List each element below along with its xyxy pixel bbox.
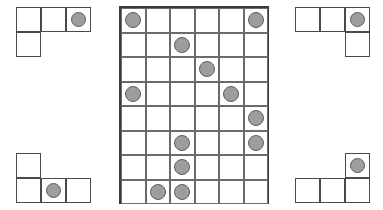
board-cell[interactable] bbox=[121, 57, 146, 82]
puzzle-canvas bbox=[0, 0, 383, 210]
piece-cell[interactable] bbox=[320, 7, 345, 32]
board-cell[interactable] bbox=[146, 8, 171, 33]
board-cell[interactable] bbox=[146, 57, 171, 82]
board-disc[interactable] bbox=[150, 184, 166, 200]
piece-cell[interactable] bbox=[16, 178, 41, 203]
board-disc[interactable] bbox=[174, 184, 190, 200]
board-cell[interactable] bbox=[195, 8, 220, 33]
board-cell[interactable] bbox=[195, 155, 220, 180]
piece-cell[interactable] bbox=[16, 153, 41, 178]
board-cell[interactable] bbox=[170, 57, 195, 82]
piece-cell[interactable] bbox=[320, 178, 345, 203]
piece-cell[interactable] bbox=[295, 178, 320, 203]
board-cell[interactable] bbox=[121, 155, 146, 180]
board-cell[interactable] bbox=[121, 180, 146, 205]
board-cell[interactable] bbox=[195, 106, 220, 131]
board-cell[interactable] bbox=[219, 131, 244, 156]
board-cell[interactable] bbox=[219, 57, 244, 82]
board-cell[interactable] bbox=[244, 57, 269, 82]
board-disc[interactable] bbox=[223, 86, 239, 102]
board-cell[interactable] bbox=[146, 131, 171, 156]
piece-cell[interactable] bbox=[41, 7, 66, 32]
bottom-right-piece[interactable] bbox=[295, 153, 371, 205]
board-cell[interactable] bbox=[195, 82, 220, 107]
piece-cell[interactable] bbox=[66, 178, 91, 203]
bottom-left-piece[interactable] bbox=[16, 153, 92, 205]
top-left-piece[interactable] bbox=[16, 7, 92, 59]
board-cell[interactable] bbox=[170, 82, 195, 107]
board-cell[interactable] bbox=[244, 180, 269, 205]
board-cell[interactable] bbox=[121, 131, 146, 156]
board-cells-layer bbox=[121, 8, 267, 202]
board-cell[interactable] bbox=[121, 33, 146, 58]
board-cell[interactable] bbox=[195, 33, 220, 58]
board-disc[interactable] bbox=[125, 86, 141, 102]
board-cell[interactable] bbox=[170, 8, 195, 33]
board-cell[interactable] bbox=[195, 131, 220, 156]
piece-cell[interactable] bbox=[16, 32, 41, 57]
piece-cell[interactable] bbox=[345, 32, 370, 57]
board-cell[interactable] bbox=[244, 155, 269, 180]
board-cell[interactable] bbox=[121, 106, 146, 131]
board-cell[interactable] bbox=[219, 180, 244, 205]
board-disc[interactable] bbox=[248, 135, 264, 151]
board-disc[interactable] bbox=[174, 135, 190, 151]
board-cell[interactable] bbox=[146, 33, 171, 58]
board-cell[interactable] bbox=[195, 180, 220, 205]
piece-cell[interactable] bbox=[295, 7, 320, 32]
piece-cell[interactable] bbox=[16, 7, 41, 32]
board-cell[interactable] bbox=[146, 106, 171, 131]
board-cell[interactable] bbox=[219, 33, 244, 58]
board-cell[interactable] bbox=[146, 155, 171, 180]
board-cell[interactable] bbox=[170, 106, 195, 131]
board-cell[interactable] bbox=[219, 106, 244, 131]
board-disc[interactable] bbox=[199, 61, 215, 77]
main-board[interactable] bbox=[119, 6, 269, 204]
board-cell[interactable] bbox=[244, 33, 269, 58]
board-disc[interactable] bbox=[174, 37, 190, 53]
board-cell[interactable] bbox=[219, 8, 244, 33]
top-right-piece[interactable] bbox=[295, 7, 371, 59]
piece-cell[interactable] bbox=[345, 178, 370, 203]
board-disc[interactable] bbox=[248, 12, 264, 28]
board-cell[interactable] bbox=[146, 82, 171, 107]
board-cell[interactable] bbox=[219, 155, 244, 180]
board-cell[interactable] bbox=[244, 82, 269, 107]
board-disc[interactable] bbox=[248, 110, 264, 126]
